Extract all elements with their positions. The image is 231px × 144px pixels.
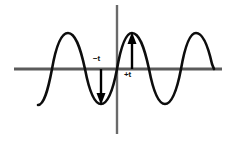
- wave-diagram: −t +t: [0, 0, 231, 144]
- positive-amplitude-label: +t: [124, 71, 131, 79]
- negative-amplitude-label: −t: [93, 55, 100, 63]
- wave-diagram-canvas: [0, 0, 231, 144]
